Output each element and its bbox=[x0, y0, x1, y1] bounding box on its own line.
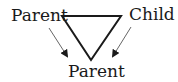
inverted-triangle bbox=[62, 16, 121, 60]
label-top-right: Child bbox=[129, 4, 175, 24]
arrow-right bbox=[113, 27, 131, 56]
label-top-left: Parent bbox=[11, 5, 68, 25]
label-bottom: Parent bbox=[68, 61, 125, 81]
arrow-left bbox=[49, 28, 67, 56]
parent-child-diagram: Parent Child Parent bbox=[0, 0, 178, 82]
